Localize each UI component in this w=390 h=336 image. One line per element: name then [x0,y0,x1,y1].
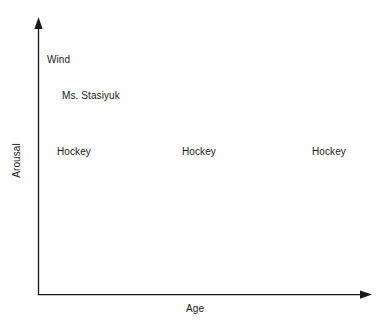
chart-axes [0,0,390,336]
arousal-age-chart: Arousal Age Wind Ms. Stasiyuk Hockey Hoc… [0,0,390,336]
data-label-ms-stasiyuk: Ms. Stasiyuk [62,90,120,101]
data-label-hockey-right: Hockey [312,146,346,157]
x-axis-title: Age [0,303,390,314]
data-label-hockey-left: Hockey [57,146,91,157]
y-axis-title: Arousal [11,131,22,191]
x-axis-arrowhead [360,291,372,299]
y-axis-arrowhead [34,17,42,29]
data-label-wind: Wind [47,54,70,65]
data-label-hockey-middle: Hockey [182,146,216,157]
